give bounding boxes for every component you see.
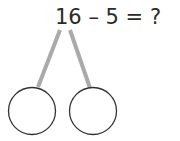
number-bond-diagram: 16 – 5 = ? <box>0 0 180 141</box>
bond-line-right <box>70 30 90 88</box>
equation-text: 16 – 5 = ? <box>55 5 161 29</box>
part-circle-left[interactable] <box>9 88 56 135</box>
part-circle-right[interactable] <box>70 88 117 135</box>
bond-line-left <box>38 30 60 87</box>
